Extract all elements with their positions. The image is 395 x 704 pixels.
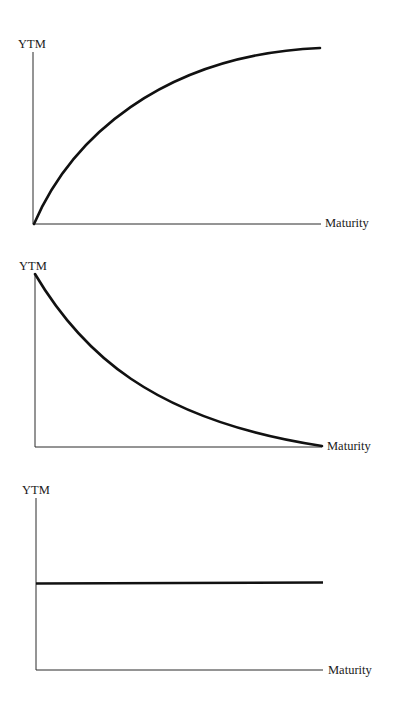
chart-flat-yield-curve: YTM Maturity [0,470,395,704]
x-axis-label: Maturity [325,217,369,230]
chart-plot [0,240,395,470]
chart-upward-yield-curve: YTM Maturity [0,0,395,240]
yield-curve-line [34,48,320,224]
x-axis-label: Maturity [328,664,372,677]
yield-curve-line [36,583,323,584]
chart-inverted-yield-curve: YTM Maturity [0,240,395,470]
chart-plot [0,0,395,240]
x-axis-label: Maturity [327,440,371,453]
yield-curve-line [35,274,322,446]
